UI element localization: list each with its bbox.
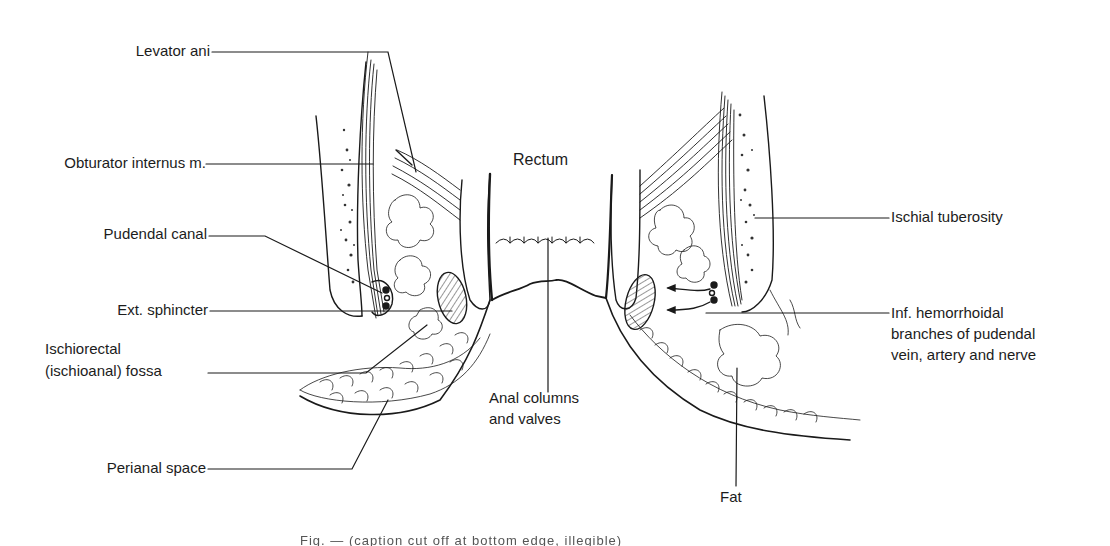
label-ext-sphincter: Ext. sphincter [40,300,208,319]
left-bone-stipple [340,129,355,284]
right-obturator-internus [718,92,742,306]
label-obturator-internus: Obturator internus m. [10,153,206,172]
left-obturator-internus [362,52,384,318]
right-bone-stipple [739,114,755,284]
anal-valves [496,237,594,243]
right-ischial-tuberosity [742,96,773,312]
label-ischiorectal-line2: (ischioanal) fossa [45,361,162,380]
left-levator-ani [392,150,460,220]
figure-caption: Fig. — (caption cut off at bottom edge, … [300,532,820,546]
left-ischial-tuberosity [316,62,366,316]
figure-caption-text: Fig. — (caption cut off at bottom edge, … [300,534,820,546]
label-levator-ani: Levator ani [80,41,210,60]
label-ischiorectal-line1: Ischiorectal [45,339,121,358]
label-anal-columns-line1: Anal columns [489,388,579,407]
label-fat: Fat [720,487,742,506]
label-inf-hemorrhoidal-line1: Inf. hemorrhoidal [891,303,1004,322]
label-inf-hemorrhoidal-line3: vein, artery and nerve [891,345,1036,364]
label-ischial-tuberosity: Ischial tuberosity [891,207,1003,226]
label-inf-hemorrhoidal-line2: branches of pudendal [891,324,1035,343]
label-anal-columns-line2: and valves [489,409,561,428]
right-pudendal-canal [668,282,717,313]
right-ext-sphincter [620,271,661,332]
label-pudendal-canal: Pudendal canal [40,224,207,243]
label-rectum: Rectum [513,150,568,169]
label-perianal-space: Perianal space [40,458,206,477]
anal-verge [492,280,606,300]
